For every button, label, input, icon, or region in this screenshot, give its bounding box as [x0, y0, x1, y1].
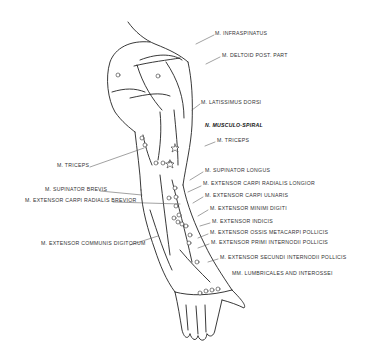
- label-ext-carpi-radialis-brevior: M. EXTENSOR CARPI RADIALIS BREVIOR: [25, 197, 136, 203]
- label-supinator-brevis: M. SUPINATOR BREVIS: [45, 186, 107, 192]
- arm-outline-drawing: [0, 0, 377, 358]
- label-ext-primi-internodii-pollicis: M. EXTENSOR PRIMI INTERNODII POLLICIS: [211, 239, 328, 245]
- label-ext-ossis-metacarpi-pollicis: M. EXTENSOR OSSIS METACARPI POLLICIS: [210, 229, 328, 235]
- label-lumbricales-interossei: MM. LUMBRICALES AND INTEROSSEI: [232, 270, 333, 276]
- label-triceps-right: M. TRICEPS: [217, 137, 249, 143]
- label-ext-indicis: M. EXTENSOR INDICIS: [212, 218, 273, 224]
- label-infraspinatus: M. INFRASPINATUS: [215, 30, 267, 36]
- label-ext-carpi-radialis-longior: M. EXTENSOR CARPI RADIALIS LONGIOR: [203, 180, 315, 186]
- label-ext-secundi-internodii-pollicis: M. EXTENSOR SECUNDI INTERNODII POLLICIS: [220, 254, 347, 260]
- label-latissimus-dorsi: M. LATISSIMUS DORSI: [201, 99, 261, 105]
- label-deltoid-post-part: M. DELTOID POST. PART: [222, 52, 288, 58]
- label-musculo-spiral-nerve: N. MUSCULO-SPIRAL: [205, 122, 263, 128]
- label-ext-minimi-digiti: M. EXTENSOR MINIMI DIGITI: [210, 205, 287, 211]
- label-triceps-left: M. TRICEPS: [57, 162, 89, 168]
- label-supinator-longus: M. SUPINATOR LONGUS: [205, 167, 270, 173]
- label-ext-communis-digitorum: M. EXTENSOR COMMUNIS DIGITORUM: [41, 240, 146, 246]
- label-ext-carpi-ulnaris: M. EXTENSOR CARPI ULNARIS: [205, 192, 288, 198]
- anatomy-diagram: M. INFRASPINATUS M. DELTOID POST. PART M…: [0, 0, 377, 358]
